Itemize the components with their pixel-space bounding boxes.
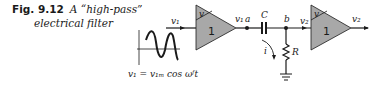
current-label: i <box>264 46 267 56</box>
arrow-icon <box>364 26 369 30</box>
node-a-dot <box>245 26 249 30</box>
amplifier-2-corner-label: v <box>314 9 319 19</box>
node-b-label: b <box>284 14 290 24</box>
arrow-icon <box>272 55 276 60</box>
resistor <box>283 28 289 74</box>
amplifier-1-corner-label: v <box>199 9 204 19</box>
amplifier-1-gain: 1 <box>208 25 215 38</box>
amplifier-2: v 1 <box>311 5 351 50</box>
resistor-label: R <box>291 47 299 57</box>
ground-icon <box>280 74 292 80</box>
amplifier-2-input-label: v₂ <box>300 16 309 26</box>
amplifier-2-gain: 1 <box>323 25 330 38</box>
sine-wave-icon <box>137 30 180 65</box>
arrow-icon <box>180 26 185 30</box>
node-a-label: a <box>245 14 250 24</box>
amplifier-1: v 1 <box>196 5 236 50</box>
amplifier-1-output-label: v₁ <box>235 14 244 24</box>
input-equation: v₁ = v₁ₘ cos ωᶠt <box>128 69 198 79</box>
arrow-icon <box>302 26 307 30</box>
capacitor <box>262 22 266 34</box>
amplifier-2-output-label: v₂ <box>352 14 361 24</box>
capacitor-label: C <box>261 10 268 20</box>
input-label: v₁ <box>171 16 180 26</box>
